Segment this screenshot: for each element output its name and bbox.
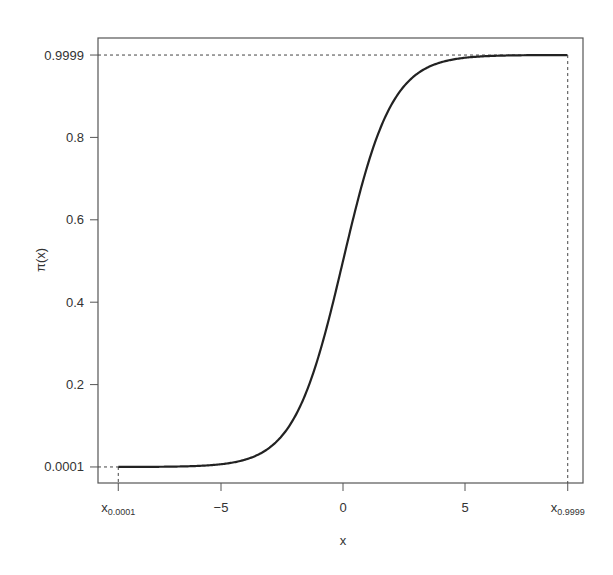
- logistic-curve: [118, 55, 567, 467]
- x-tick-label: 5: [461, 500, 468, 515]
- y-tick-label: 0.8: [66, 130, 84, 145]
- plot-frame: [98, 38, 583, 483]
- y-tick-label: 0.2: [66, 377, 84, 392]
- y-tick-label: 0.0001: [44, 459, 84, 474]
- x-tick-label: x0.0001: [101, 500, 135, 517]
- x-tick-label: 0: [339, 500, 346, 515]
- y-tick-label: 0.9999: [44, 48, 84, 63]
- y-axis-label: π(x): [33, 248, 48, 272]
- x-tick-label: x0.9999: [551, 500, 585, 517]
- y-tick-label: 0.6: [66, 212, 84, 227]
- reference-lines: [98, 55, 568, 483]
- x-axis-label: x: [340, 533, 347, 548]
- x-tick-label: −5: [214, 500, 229, 515]
- axis-ticks: x0.0001−505x0.99990.00010.20.40.60.80.99…: [44, 48, 585, 517]
- y-tick-label: 0.4: [66, 295, 84, 310]
- logistic-chart: x0.0001−505x0.99990.00010.20.40.60.80.99…: [0, 0, 613, 575]
